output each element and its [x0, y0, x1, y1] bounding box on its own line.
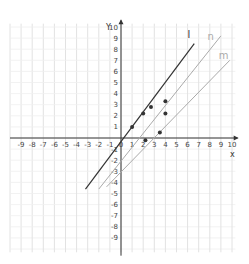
x-tick-label: 8	[208, 141, 212, 149]
x-tick-label: -6	[51, 141, 59, 149]
data-point	[130, 125, 134, 129]
y-tick-label: 5	[114, 79, 118, 87]
plotted-lines: lnm	[85, 29, 229, 189]
x-tick-label: 10	[228, 141, 237, 149]
y-tick-label: -5	[111, 190, 118, 198]
y-tick-label: 6	[114, 68, 119, 76]
x-tick-label: -7	[40, 141, 47, 149]
x-tick-label: -8	[29, 141, 36, 149]
data-point	[141, 112, 145, 116]
x-tick-label: 3	[152, 141, 156, 149]
line-label-l: l	[188, 29, 191, 40]
coordinate-plane-chart: -9-8-7-6-5-4-3-2-1012345678910-9-8-7-6-5…	[0, 0, 249, 264]
data-point	[143, 138, 147, 142]
data-points	[130, 99, 167, 142]
y-tick-label: 2	[114, 112, 118, 120]
line-label-n: n	[208, 31, 214, 42]
y-tick-label: 1	[114, 123, 118, 131]
y-tick-label: -7	[111, 212, 118, 220]
y-tick-label: -9	[111, 234, 118, 242]
x-tick-label: -2	[95, 141, 102, 149]
x-tick-label: -3	[84, 141, 91, 149]
line-label-m: m	[219, 50, 229, 61]
data-point	[158, 130, 162, 134]
y-axis-label: Y	[105, 23, 111, 32]
y-tick-label: 8	[114, 46, 118, 54]
x-tick-label: -4	[73, 141, 81, 149]
y-tick-label: -2	[111, 157, 118, 165]
x-tick-label: 6	[185, 141, 190, 149]
y-tick-label: 3	[114, 101, 118, 109]
data-point	[163, 99, 167, 103]
x-tick-label: -5	[62, 141, 69, 149]
x-axis-label: x	[230, 150, 235, 159]
y-axis-arrow-icon	[119, 19, 124, 24]
y-tick-label: 7	[114, 57, 118, 65]
data-point	[163, 112, 167, 116]
line-l	[85, 44, 194, 189]
x-tick-label: -9	[18, 141, 25, 149]
x-tick-label: 9	[219, 141, 223, 149]
y-tick-label: 9	[114, 35, 118, 43]
data-point	[149, 105, 153, 109]
y-tick-label: -8	[111, 223, 118, 231]
x-axis-arrow-icon	[234, 136, 239, 141]
y-tick-label: -4	[111, 179, 119, 187]
y-tick-label: -6	[111, 201, 119, 209]
x-tick-label: 4	[163, 141, 168, 149]
y-tick-label: 4	[114, 90, 119, 98]
x-tick-label: 5	[174, 141, 178, 149]
x-tick-label: 7	[196, 141, 200, 149]
